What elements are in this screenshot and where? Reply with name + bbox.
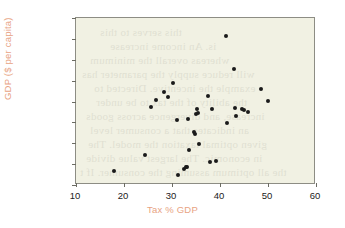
x-axis-tick-label: 50 <box>262 190 273 201</box>
bleed-text-line: in economic. The largest value divide <box>86 152 262 164</box>
data-point <box>214 159 218 163</box>
bleed-text-line: this serves to this <box>100 26 182 38</box>
data-point <box>193 132 197 136</box>
page-bleed-through-text: an evidence of which athis serves to thi… <box>76 18 314 183</box>
bleed-text-line: will reduce supply the parameter has <box>82 68 254 80</box>
data-point <box>187 148 191 152</box>
y-axis-tick <box>72 18 76 19</box>
data-point <box>171 81 175 85</box>
data-point <box>208 160 212 164</box>
data-point <box>149 105 153 109</box>
data-point <box>112 169 116 173</box>
data-point <box>154 98 158 102</box>
bleed-text-line: including a labour allocation and produc… <box>84 180 279 183</box>
y-axis-tick <box>72 122 76 123</box>
bleed-text-line: the ability of the tax to be under <box>96 96 247 108</box>
x-axis-tick-label: 20 <box>118 190 129 201</box>
bleed-text-line: given optimal taxation the model. The <box>88 138 267 150</box>
y-axis-tick <box>72 164 76 165</box>
y-axis-tick <box>72 81 76 82</box>
bleed-text-line: an indicates that a consumer level <box>90 124 249 136</box>
plot-area: an evidence of which athis serves to thi… <box>75 17 315 184</box>
bleed-text-line: is. An income increase <box>110 40 216 52</box>
data-point <box>197 142 201 146</box>
x-axis-tick <box>124 183 125 187</box>
data-point <box>259 87 263 91</box>
data-point <box>246 110 250 114</box>
data-point <box>162 90 166 94</box>
data-point <box>266 99 270 103</box>
data-point <box>232 67 236 71</box>
data-point <box>176 173 180 177</box>
x-axis-tick-label: 60 <box>310 190 321 201</box>
y-axis-tick <box>72 143 76 144</box>
data-point <box>224 34 228 38</box>
data-point <box>210 107 214 111</box>
data-point <box>234 114 238 118</box>
y-axis-title: GDP ($ per capita) <box>2 17 13 100</box>
data-point <box>225 121 229 125</box>
scatter-chart-figure: GDP ($ per capita) 010,00020,00030,00040… <box>0 0 345 228</box>
x-axis-tick <box>76 183 77 187</box>
y-axis-tick <box>72 60 76 61</box>
y-axis-tick <box>72 102 76 103</box>
data-point <box>206 94 210 98</box>
bleed-text-line: whereas overall the minimum <box>90 54 229 66</box>
data-point <box>196 111 200 115</box>
data-point <box>186 117 190 121</box>
data-point <box>166 95 170 99</box>
y-axis-tick <box>72 39 76 40</box>
data-point <box>233 106 237 110</box>
x-axis-tick-label: 30 <box>166 190 177 201</box>
x-axis-tick-label: 40 <box>214 190 225 201</box>
x-axis-tick <box>316 183 317 187</box>
data-point <box>185 165 189 169</box>
data-point <box>175 118 179 122</box>
x-axis-tick <box>172 183 173 187</box>
data-point <box>143 153 147 157</box>
x-axis-tick-label: 10 <box>70 190 81 201</box>
x-axis-tick <box>220 183 221 187</box>
x-axis-title: Tax % GDP <box>0 204 345 215</box>
x-axis-tick <box>268 183 269 187</box>
